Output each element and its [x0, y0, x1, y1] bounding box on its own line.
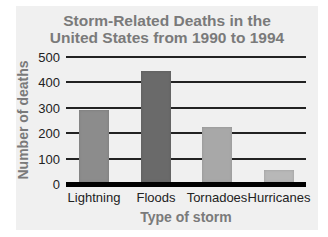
x-axis-line	[66, 182, 306, 187]
chart-title-line-1: Storm-Related Deaths in the	[16, 12, 318, 29]
gridline	[66, 56, 306, 58]
y-tick-label: 500	[30, 50, 60, 65]
bar-floods	[141, 71, 171, 182]
gridline	[66, 81, 306, 83]
x-tick-label: Floods	[136, 190, 175, 205]
chart-title: Storm-Related Deaths in the United State…	[16, 12, 318, 46]
chart-title-line-2: United States from 1990 to 1994	[16, 29, 318, 46]
x-tick-label: Hurricanes	[248, 190, 311, 205]
x-axis-label: Type of storm	[66, 209, 306, 225]
x-tick-label: Lightning	[68, 190, 121, 205]
y-tick-label: 400	[30, 75, 60, 90]
y-tick-label: 0	[30, 177, 60, 192]
bar-tornadoes	[202, 127, 232, 182]
bar-lightning	[79, 110, 109, 182]
gridline	[66, 107, 306, 109]
y-axis-label: Number of deaths	[15, 60, 31, 179]
y-tick-label: 300	[30, 100, 60, 115]
x-tick-label: Tornadoes	[187, 190, 248, 205]
y-tick-label: 100	[30, 151, 60, 166]
y-tick-label: 200	[30, 126, 60, 141]
bar-hurricanes	[264, 170, 294, 182]
